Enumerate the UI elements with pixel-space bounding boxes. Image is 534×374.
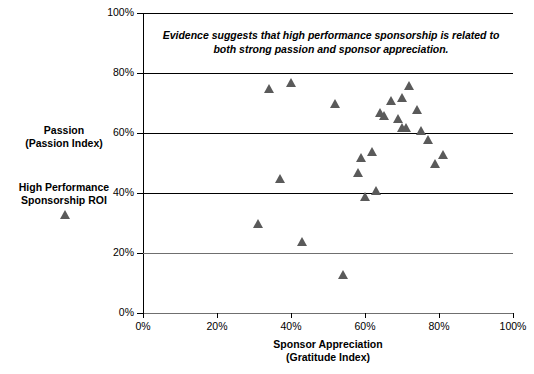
- y-tick-label-60: 60%: [94, 127, 134, 138]
- data-point-triangle: [297, 237, 307, 246]
- y-tick-label-80: 80%: [94, 67, 134, 78]
- x-tick-label-80: 80%: [417, 320, 461, 332]
- data-point-triangle: [430, 159, 440, 168]
- x-tick-label-100: 100%: [491, 320, 534, 332]
- gridline-y-0: [143, 313, 513, 314]
- data-point-triangle: [356, 153, 366, 162]
- triangle-marker-icon: [60, 210, 70, 219]
- data-point-triangle: [412, 105, 422, 114]
- data-point-triangle: [330, 99, 340, 108]
- x-axis-title: Sponsor Appreciation (Gratitude Index): [143, 338, 513, 363]
- data-point-triangle: [397, 93, 407, 102]
- data-point-triangle: [353, 168, 363, 177]
- data-point-triangle: [360, 192, 370, 201]
- x-axis-title-main: Sponsor Appreciation: [143, 338, 513, 351]
- data-point-triangle: [264, 84, 274, 93]
- data-point-triangle: [253, 219, 263, 228]
- x-tick-label-40: 40%: [269, 320, 313, 332]
- y-tick-label-40: 40%: [94, 187, 134, 198]
- x-tick-label-20: 20%: [195, 320, 239, 332]
- data-point-triangle: [386, 96, 396, 105]
- x-tick-0: [143, 313, 144, 318]
- y-tick-label-0: 0%: [94, 307, 134, 318]
- data-point-triangle: [275, 174, 285, 183]
- data-point-triangle: [404, 81, 414, 90]
- x-tick-40: [291, 313, 292, 318]
- x-tick-100: [513, 313, 514, 318]
- y-tick-label-100: 100%: [94, 7, 134, 18]
- data-point-triangle: [338, 270, 348, 279]
- data-point-triangle: [393, 114, 403, 123]
- data-point-triangle: [379, 111, 389, 120]
- data-point-triangle: [401, 123, 411, 132]
- data-point-triangle: [367, 147, 377, 156]
- data-point-triangle: [438, 150, 448, 159]
- y-axis-title-sub: (Passion Index): [0, 137, 128, 150]
- x-tick-label-60: 60%: [343, 320, 387, 332]
- x-tick-80: [439, 313, 440, 318]
- x-tick-20: [217, 313, 218, 318]
- data-point-triangle: [416, 126, 426, 135]
- data-point-triangle: [371, 186, 381, 195]
- scatter-chart: Evidence suggests that high performance …: [0, 0, 534, 374]
- data-point-triangle: [423, 135, 433, 144]
- data-point-triangle: [286, 78, 296, 87]
- x-tick-60: [365, 313, 366, 318]
- x-tick-label-0: 0%: [121, 320, 165, 332]
- y-tick-label-20: 20%: [94, 247, 134, 258]
- x-axis-title-sub: (Gratitude Index): [143, 351, 513, 364]
- data-points-layer: [143, 13, 513, 313]
